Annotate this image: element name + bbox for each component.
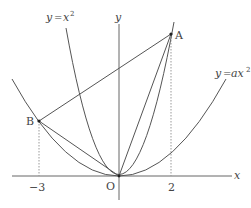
point-b	[37, 119, 40, 122]
x-axis-label: x	[234, 169, 241, 182]
segment-ob	[39, 121, 119, 176]
svg-text:x: x	[63, 11, 70, 24]
equation-label-y-ax-squared: y = ax 2	[214, 66, 250, 80]
segment-oa	[119, 34, 171, 176]
svg-text:=: =	[54, 12, 62, 23]
svg-text:ax: ax	[231, 67, 245, 80]
equation-label-y-x-squared: y = x 2	[45, 10, 74, 24]
parabola-y-x-squared	[66, 22, 174, 175]
point-b-label: B	[26, 115, 34, 128]
svg-text:2: 2	[70, 10, 74, 18]
svg-text:y: y	[214, 67, 222, 80]
origin-label: O	[106, 180, 115, 193]
tick-label-2: 2	[168, 181, 175, 194]
segment-ab	[39, 34, 171, 121]
point-a	[169, 32, 172, 35]
svg-text:2: 2	[246, 66, 250, 74]
parabola-diagram: A B O x y −3 2 y = x 2 y = ax 2	[0, 0, 251, 208]
y-axis-label: y	[114, 11, 122, 24]
svg-text:y: y	[45, 11, 53, 24]
tick-label-neg3: −3	[29, 181, 45, 194]
point-a-label: A	[174, 29, 184, 42]
point-o	[118, 175, 121, 178]
